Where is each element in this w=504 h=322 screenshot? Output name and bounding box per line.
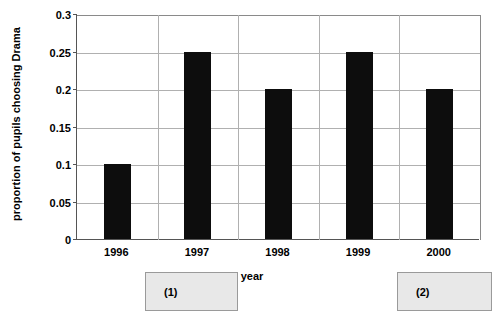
y-tick-mark-0.1 [73, 164, 77, 165]
y-tick-label-0.1: 0.1 [56, 159, 71, 171]
y-tick-mark-0.15 [73, 127, 77, 128]
x-tick-label-1999: 1999 [346, 246, 370, 258]
gridline-x-1 [158, 15, 159, 240]
bar-1996 [104, 164, 131, 239]
x-tick-label-1998: 1998 [265, 246, 289, 258]
annotation-box-2-label: (2) [416, 286, 429, 298]
bar-chart-figure: proportion of pupils choosing Drama 00.0… [0, 0, 504, 322]
x-tick-label-1996: 1996 [104, 246, 128, 258]
annotation-box-1-label: (1) [164, 286, 177, 298]
x-tick-label-2000: 2000 [426, 246, 450, 258]
y-tick-mark-0.2 [73, 89, 77, 90]
annotation-box-2: (2) [397, 272, 492, 311]
y-tick-label-0: 0 [65, 234, 71, 246]
gridline-x-4 [399, 15, 400, 240]
y-tick-mark-0.25 [73, 52, 77, 53]
x-tick-label-1997: 1997 [185, 246, 209, 258]
gridline-x-3 [319, 15, 320, 240]
y-tick-label-0.2: 0.2 [56, 84, 71, 96]
y-tick-label-0.25: 0.25 [50, 47, 71, 59]
gridline-y-0.3 [77, 15, 480, 16]
gridline-y-0.25 [77, 53, 480, 54]
y-tick-label-0.05: 0.05 [50, 197, 71, 209]
y-tick-mark-0.3 [73, 14, 77, 15]
plot-area: 00.050.10.150.20.250.3 [76, 15, 479, 240]
y-tick-mark-0.05 [73, 202, 77, 203]
y-tick-label-0.3: 0.3 [56, 9, 71, 21]
annotation-box-1: (1) [145, 272, 238, 311]
bar-1997 [184, 52, 211, 240]
bar-1999 [346, 52, 373, 240]
bar-1998 [265, 89, 292, 239]
gridline-x-5 [480, 15, 481, 240]
bar-2000 [426, 89, 453, 239]
gridline-x-2 [238, 15, 239, 240]
y-axis-title: proportion of pupils choosing Drama [10, 4, 22, 244]
y-tick-label-0.15: 0.15 [50, 122, 71, 134]
y-tick-mark-0 [73, 239, 77, 240]
